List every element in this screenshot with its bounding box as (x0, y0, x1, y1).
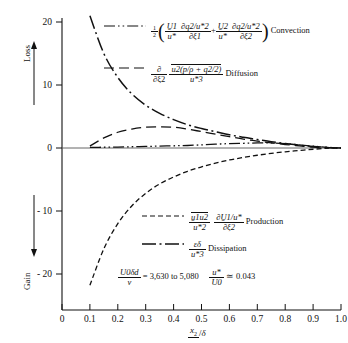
x-tick-label: 0.2 (112, 314, 124, 324)
diffusion-formula: ∂∂ξ2 u2(p/ρ + q2/2)u*3 Diffusion (151, 64, 258, 84)
x-tick-label: 1.0 (335, 314, 347, 324)
x-tick-label: 0 (60, 314, 65, 324)
plot-canvas: 20100- 10- 20 00.10.20.30.40.50.60.70.80… (0, 0, 348, 343)
diffusion-line-sample (104, 70, 146, 78)
y-axis-upper-label-loss: Loss (16, 45, 34, 62)
x-axis-ticks: 00.10.20.30.40.50.60.70.80.91.0 (60, 304, 348, 324)
axis-direction-arrows (31, 41, 37, 257)
y-tick-label: 10 (43, 80, 53, 90)
y-tick-label: - 20 (37, 269, 52, 279)
convection-formula: 12(U̱1u*∂q̱2/u*2∂ξ1+U̱2u*∂q̱2/u*2∂ξ2) Co… (151, 22, 310, 41)
legend-entry-diffusion[interactable]: ∂∂ξ2 u2(p/ρ + q2/2)u*3 Diffusion (104, 64, 258, 84)
x-tick-label: 0.9 (307, 314, 319, 324)
x-tick-label: 0.7 (251, 314, 263, 324)
convection-line-sample (104, 27, 146, 35)
x-tick-label: 0.8 (279, 314, 291, 324)
y-tick-label: - 10 (37, 206, 52, 216)
dissipation-line-sample (142, 245, 184, 253)
reynolds-number-annotation: U0δdν = 3,630 to 5,080 u*U0 ≃ 0.043 (118, 268, 255, 287)
production-line-sample (142, 218, 184, 226)
x-tick-label: 0.6 (223, 314, 235, 324)
legend-entry-production[interactable]: u̱1u2u*2 ∂U̱1/u*∂ξ2 Production (142, 212, 283, 232)
dissipation-formula: εδu*3 Dissipation (189, 240, 247, 259)
y-axis-ticks: 20100- 10- 20 (37, 17, 62, 279)
turbulence-energy-budget-figure: 20100- 10- 20 00.10.20.30.40.50.60.70.80… (0, 0, 348, 343)
axes-group (62, 18, 341, 310)
x-tick-label: 0.4 (168, 314, 180, 324)
x-axis-title: x2 /δ (188, 322, 206, 340)
legend-entry-convection[interactable]: 12(U̱1u*∂q̱2/u*2∂ξ1+U̱2u*∂q̱2/u*2∂ξ2) Co… (104, 22, 310, 41)
legend-entry-dissipation[interactable]: εδu*3 Dissipation (142, 240, 247, 259)
x-tick-label: 0.1 (84, 314, 96, 324)
production-formula: u̱1u2u*2 ∂U̱1/u*∂ξ2 Production (189, 212, 283, 232)
y-tick-label: 20 (43, 17, 53, 27)
y-axis-lower-label-gain: Gain (16, 273, 34, 291)
x-tick-label: 0.3 (140, 314, 152, 324)
y-tick-label: 0 (47, 143, 52, 153)
